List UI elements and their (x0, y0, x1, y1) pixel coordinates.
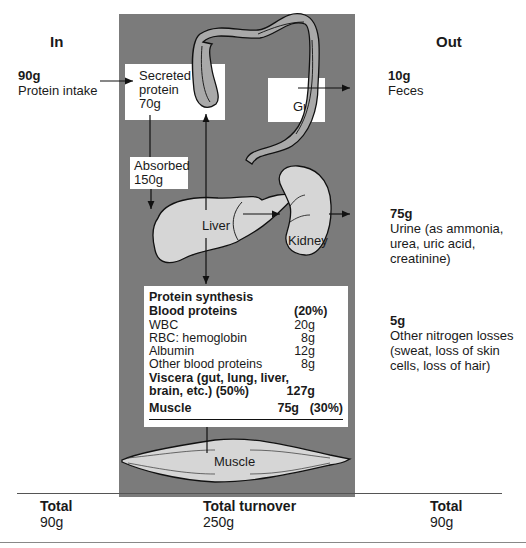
output-label-line: Other nitrogen losses (390, 328, 514, 343)
output-urine: 75g Urine (as ammonia, urea, uric acid, … (390, 206, 503, 266)
output-label: Feces (388, 83, 423, 98)
total-turnover: Total turnover 250g (203, 498, 296, 530)
blood-item-value: 8g (301, 358, 315, 371)
viscera-value: 127g (287, 385, 316, 398)
total-out: Total 90g (430, 498, 462, 530)
total-out-label: Total (430, 498, 462, 514)
total-turnover-value: 250g (203, 514, 296, 530)
total-in: Total 90g (40, 498, 72, 530)
blood-item-name: WBC (149, 318, 178, 332)
blood-item-name: Other blood proteins (149, 357, 262, 371)
total-out-value: 90g (430, 514, 462, 530)
totals-divider (17, 493, 502, 494)
output-label-line: (sweat, loss of skin (390, 343, 514, 358)
blood-item-row: Other blood proteins 8g (149, 358, 343, 371)
blood-item-name: Albumin (149, 344, 194, 358)
blood-item-name: RBC: hemoglobin (149, 331, 247, 345)
output-amount: 5g (390, 313, 514, 328)
colon-icon (192, 14, 319, 164)
protein-synthesis-box: Protein synthesis Blood proteins (20%) W… (144, 286, 348, 403)
viscera-line2: brain, etc.) (50%) (149, 384, 249, 398)
output-feces: 10g Feces (388, 68, 423, 98)
output-amount: 75g (390, 206, 503, 221)
output-amount: 10g (388, 68, 423, 83)
total-turnover-label: Total turnover (203, 498, 296, 514)
output-label-line: creatinine) (390, 251, 503, 266)
output-other-losses: 5g Other nitrogen losses (sweat, loss of… (390, 313, 514, 373)
diagram-graphics: Liver Kidney Muscle (0, 0, 526, 548)
blood-proteins-pct: (20%) (294, 305, 327, 318)
total-in-value: 90g (40, 514, 72, 530)
blood-proteins-title: Blood proteins (149, 304, 237, 318)
kidney-label: Kidney (288, 233, 328, 248)
muscle-synth-value: 75g (277, 402, 299, 415)
liver-label: Liver (202, 218, 231, 233)
synthesis-underline (149, 419, 343, 420)
synthesis-title: Protein synthesis (149, 291, 343, 304)
output-label-line: cells, loss of hair) (390, 358, 514, 373)
page-bottom-rule (0, 542, 526, 543)
muscle-synthesis-row: Muscle 75g (30%) (144, 403, 348, 427)
muscle-synth-pct: (30%) (310, 402, 343, 415)
output-label-line: Urine (as ammonia, (390, 221, 503, 236)
muscle-synth-name: Muscle (149, 401, 191, 415)
output-label-line: urea, uric acid, (390, 236, 503, 251)
total-in-label: Total (40, 498, 72, 514)
muscle-organ-label: Muscle (214, 454, 255, 469)
